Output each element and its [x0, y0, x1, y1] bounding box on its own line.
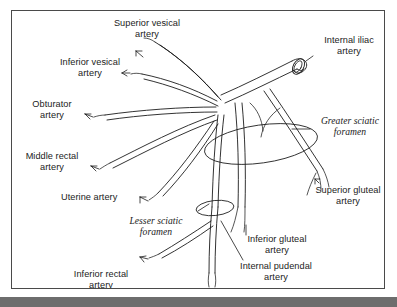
label-inferior-vesical-artery: Inferior vesical artery [44, 57, 136, 78]
inferior-vesical-artery-vessel [131, 73, 218, 106]
anterior-division-trunk [212, 115, 224, 207]
internal-iliac-artery-vessel [221, 57, 307, 103]
figure-root: Superior vesical artery Inferior vesical… [0, 0, 397, 307]
label-inferior-gluteal-artery: Inferior gluteal artery [237, 234, 317, 255]
obturator-artery-vessel [94, 107, 217, 120]
label-superior-gluteal-artery: Superior gluteal artery [308, 185, 385, 206]
figure-frame: Superior vesical artery Inferior vesical… [11, 10, 385, 289]
label-inferior-rectal-artery: Inferior rectal artery [61, 269, 141, 289]
bottom-band [0, 297, 397, 307]
label-internal-iliac-artery: Internal iliac artery [312, 35, 385, 56]
label-middle-rectal-artery: Middle rectal artery [12, 151, 92, 172]
label-internal-pudendal-artery: Internal pudendal artery [228, 261, 324, 282]
label-greater-sciatic-foramen: Greater sciatic foramen [309, 116, 385, 137]
lesser-sciatic-foramen-ring [195, 199, 234, 218]
inferior-gluteal-artery-vessel [231, 103, 245, 232]
uterine-artery-vessel [149, 121, 218, 200]
label-uterine-artery: Uterine artery [61, 192, 145, 203]
label-superior-vesical-artery: Superior vesical artery [98, 18, 196, 39]
internal-pudendal-artery-vessel [208, 207, 218, 287]
label-obturator-artery: Obturator artery [18, 99, 86, 120]
label-lesser-sciatic-foramen: Lesser sciatic foramen [113, 216, 199, 237]
